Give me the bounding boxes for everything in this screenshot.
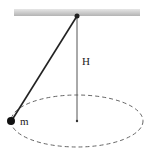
mass-label: m: [20, 115, 29, 127]
height-label: H: [82, 55, 90, 67]
mass-bob: [7, 117, 15, 125]
pendulum-string: [12, 16, 77, 120]
circle-center-dot: [76, 120, 78, 122]
conical-pendulum-diagram: H m: [0, 0, 153, 157]
pivot-point: [75, 14, 80, 19]
